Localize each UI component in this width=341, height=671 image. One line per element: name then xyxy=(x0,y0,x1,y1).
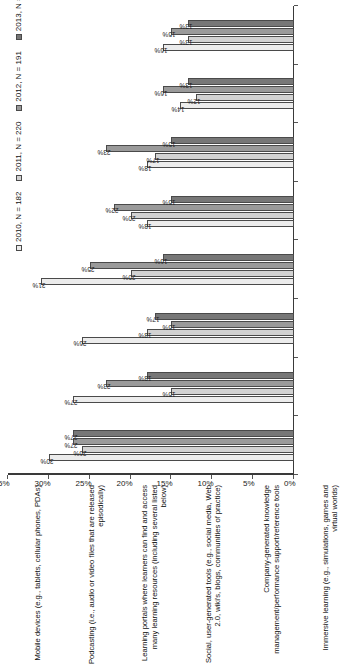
bar-2012[interactable]: 15% xyxy=(171,321,294,328)
bar-value-label: 23% xyxy=(98,149,111,156)
bar-value-label: 30% xyxy=(40,458,53,465)
bar-value-label: 25% xyxy=(81,266,94,273)
bar-value-label: 27% xyxy=(65,399,78,406)
bar-2011[interactable]: 20% xyxy=(131,212,294,219)
bar-group: 14%12%16%13% xyxy=(8,65,294,124)
category-tick xyxy=(294,415,298,416)
bar-value-label: 31% xyxy=(32,282,45,289)
bar-2011[interactable]: 13% xyxy=(188,36,294,43)
bar-value-label: 13% xyxy=(179,39,192,46)
category-tick xyxy=(294,474,298,475)
bar-group: 16%13%15%13% xyxy=(8,6,294,65)
bar-value-label: 15% xyxy=(163,324,176,331)
category-label: Social, user-generated tools (e.g., soci… xyxy=(184,485,243,671)
bar-2012[interactable]: 23% xyxy=(106,145,294,152)
legend-label: 2012, N = 191 xyxy=(14,51,23,101)
legend-swatch-icon xyxy=(16,34,22,40)
category-label: Mobile devices (e.g., tablets, cellular … xyxy=(8,485,67,671)
bar-value-label: 16% xyxy=(155,47,168,54)
chart-legend: 2010, N = 1822011, N = 2202012, N = 1912… xyxy=(14,0,23,251)
bar-2010[interactable]: 31% xyxy=(41,278,294,285)
legend-swatch-icon xyxy=(16,245,22,251)
axis-tick-label: 10% xyxy=(198,479,214,488)
axis-tick-label: 30% xyxy=(34,479,50,488)
bar-value-label: 15% xyxy=(163,391,176,398)
bar-2010[interactable]: 26% xyxy=(82,337,294,344)
category-tick xyxy=(294,240,298,241)
bar-2010[interactable]: 27% xyxy=(73,396,294,403)
legend-item[interactable]: 2011, N = 220 xyxy=(14,122,23,181)
bar-chart-figure: Mobile devices (e.g., tablets, cellular … xyxy=(0,0,341,671)
bar-2013[interactable]: 15% xyxy=(171,137,294,144)
bar-2013[interactable]: 13% xyxy=(188,78,294,85)
category-tick xyxy=(294,122,298,123)
bar-2011[interactable]: 12% xyxy=(196,94,294,101)
legend-item[interactable]: 2013, N = 185 xyxy=(14,0,23,40)
plot-area: 0%5%10%15%20%25%30%35%30%26%27%27%27%15%… xyxy=(8,6,294,475)
bar-value-label: 15% xyxy=(163,199,176,206)
axis-tick-label: 35% xyxy=(0,479,10,488)
bar-2013[interactable]: 13% xyxy=(188,20,294,27)
legend-swatch-icon xyxy=(16,105,22,111)
category-label: Immersive learning (e.g., simulations, g… xyxy=(301,485,341,671)
category-tick xyxy=(294,357,298,358)
bar-group: 26%18%15%17% xyxy=(8,299,294,358)
bar-value-label: 17% xyxy=(147,316,160,323)
axis-tick-label: 0% xyxy=(284,479,296,488)
bar-value-label: 23% xyxy=(98,383,111,390)
bar-value-label: 12% xyxy=(187,98,200,105)
bar-value-label: 26% xyxy=(73,340,86,347)
category-label: Company-generated knowledge management/p… xyxy=(243,485,302,671)
axis-tick-label: 25% xyxy=(75,479,91,488)
bar-2013[interactable]: 27% xyxy=(73,430,294,437)
bar-group: 30%26%27%27% xyxy=(8,416,294,475)
bar-2013[interactable]: 18% xyxy=(147,372,294,379)
bar-value-label: 18% xyxy=(138,165,151,172)
bar-2012[interactable]: 25% xyxy=(90,262,294,269)
category-tick xyxy=(294,181,298,182)
bar-2013[interactable]: 16% xyxy=(163,254,294,261)
bar-2011[interactable]: 15% xyxy=(171,388,294,395)
bar-value-label: 18% xyxy=(138,332,151,339)
legend-item[interactable]: 2010, N = 182 xyxy=(14,192,23,251)
legend-item[interactable]: 2012, N = 191 xyxy=(14,51,23,110)
bar-2012[interactable]: 22% xyxy=(114,204,294,211)
axis-tick-label: 15% xyxy=(157,479,173,488)
bar-value-label: 15% xyxy=(163,31,176,38)
bar-2010[interactable]: 18% xyxy=(147,220,294,227)
bar-value-label: 13% xyxy=(179,82,192,89)
axis-tick-label: 5% xyxy=(243,479,255,488)
bar-value-label: 27% xyxy=(65,442,78,449)
bar-value-label: 27% xyxy=(65,434,78,441)
legend-label: 2010, N = 182 xyxy=(14,192,23,242)
legend-label: 2011, N = 220 xyxy=(14,122,23,172)
bar-2012[interactable]: 23% xyxy=(106,380,294,387)
legend-label: 2013, N = 185 xyxy=(14,0,23,31)
bar-2011[interactable]: 20% xyxy=(131,270,294,277)
bar-2010[interactable]: 18% xyxy=(147,161,294,168)
category-axis-labels: Mobile devices (e.g., tablets, cellular … xyxy=(8,481,294,671)
category-tick xyxy=(294,298,298,299)
bar-2013[interactable]: 17% xyxy=(155,313,294,320)
category-tick xyxy=(294,5,298,6)
bar-group: 18%20%22%15% xyxy=(8,182,294,241)
legend-swatch-icon xyxy=(16,175,22,181)
bar-value-label: 18% xyxy=(138,375,151,382)
bar-2011[interactable]: 17% xyxy=(155,153,294,160)
bar-group: 27%15%23%18% xyxy=(8,358,294,417)
bar-value-label: 15% xyxy=(163,141,176,148)
bar-value-label: 22% xyxy=(106,207,119,214)
bar-value-label: 16% xyxy=(155,90,168,97)
bar-value-label: 20% xyxy=(122,215,135,222)
bar-value-label: 26% xyxy=(73,450,86,457)
bar-value-label: 20% xyxy=(122,274,135,281)
bar-2012[interactable]: 27% xyxy=(73,438,294,445)
bar-group: 18%17%23%15% xyxy=(8,123,294,182)
category-tick xyxy=(294,64,298,65)
bar-2013[interactable]: 15% xyxy=(171,196,294,203)
bar-group: 31%20%25%16% xyxy=(8,241,294,300)
chart-rotation-wrapper: Mobile devices (e.g., tablets, cellular … xyxy=(0,0,341,671)
bar-value-label: 17% xyxy=(147,157,160,164)
bar-2011[interactable]: 26% xyxy=(82,446,294,453)
bar-value-label: 14% xyxy=(171,106,184,113)
